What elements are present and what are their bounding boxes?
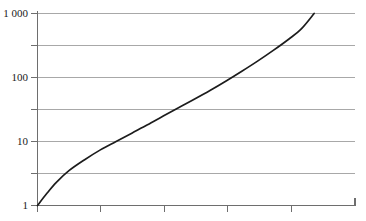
log-line-chart: 1 000 100 10 1 — [0, 0, 366, 221]
y-tick-label-1: 1 — [23, 199, 29, 211]
chart-container: 1 000 100 10 1 — [0, 0, 366, 221]
y-tick-label-100: 100 — [12, 71, 29, 83]
y-tick-label-1000: 1 000 — [3, 7, 28, 19]
y-tick-label-10: 10 — [17, 135, 29, 147]
chart-background — [0, 0, 366, 221]
